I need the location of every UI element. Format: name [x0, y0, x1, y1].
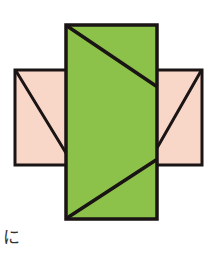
- figure-label: に: [3, 226, 20, 248]
- folded-shape-diagram: [0, 0, 224, 254]
